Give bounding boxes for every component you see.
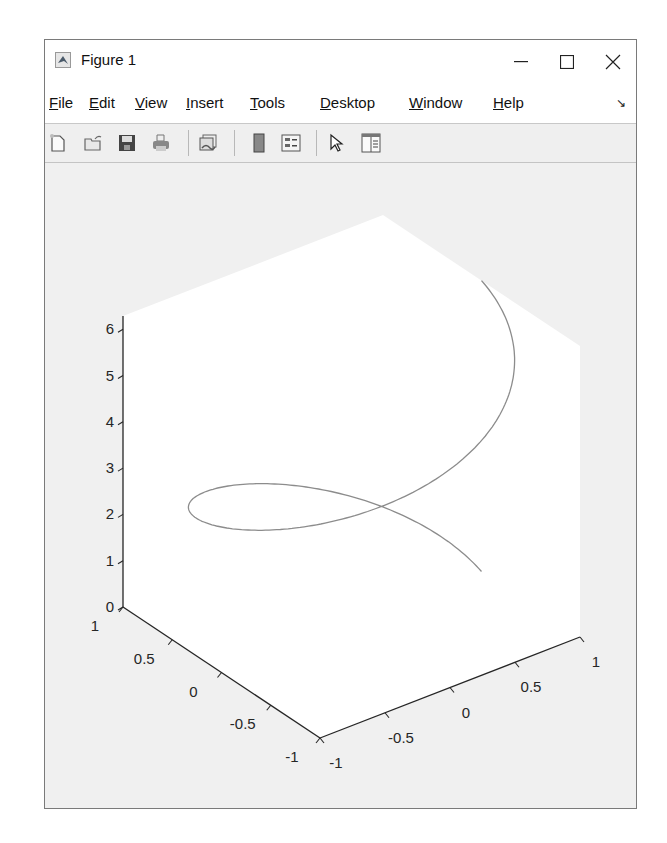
svg-text:0.5: 0.5 [521,678,542,695]
svg-text:0: 0 [189,683,197,700]
svg-text:3: 3 [106,459,114,476]
svg-text:0: 0 [106,598,114,615]
svg-text:0: 0 [462,704,470,721]
svg-text:1: 1 [106,552,114,569]
svg-text:1: 1 [91,617,99,634]
svg-text:6: 6 [106,320,114,337]
svg-text:-0.5: -0.5 [388,729,414,746]
svg-text:5: 5 [106,367,114,384]
svg-text:2: 2 [106,505,114,522]
axes-background [123,215,580,738]
svg-text:0.5: 0.5 [134,650,155,667]
axes-3d[interactable]: 0123456-1-0.500.51-1-0.500.51 [0,0,667,843]
svg-text:-1: -1 [329,754,342,771]
svg-text:1: 1 [592,653,600,670]
svg-text:-1: -1 [285,748,298,765]
svg-text:-0.5: -0.5 [230,715,256,732]
svg-text:4: 4 [106,413,114,430]
